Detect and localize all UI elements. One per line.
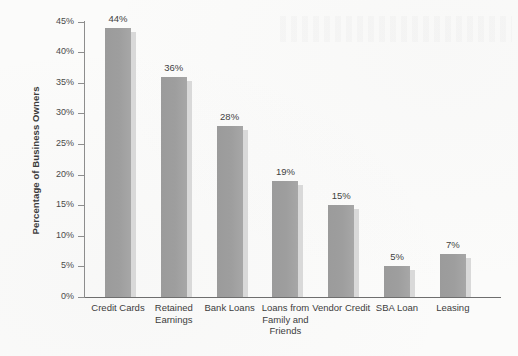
y-axis-tick-mark: [78, 175, 85, 176]
bar-body: [384, 266, 410, 297]
y-axis-tick-label: 25%: [34, 138, 74, 148]
bar-shadow: [466, 258, 471, 297]
bar[interactable]: 5%: [384, 266, 415, 297]
y-axis-tick-mark: [78, 236, 85, 237]
y-axis-tick-label: 15%: [34, 199, 74, 209]
bar-body: [272, 181, 298, 297]
bar-value-label: 7%: [431, 239, 475, 250]
bar-body: [440, 254, 466, 297]
bar-value-label: 19%: [263, 166, 307, 177]
y-axis-tick-mark: [78, 83, 85, 84]
bar-shadow: [410, 270, 415, 297]
bar[interactable]: 36%: [161, 77, 192, 297]
bar-value-label: 5%: [375, 251, 419, 262]
bar-shadow: [131, 32, 136, 297]
bar-value-label: 44%: [96, 13, 140, 24]
bar-shadow: [354, 209, 359, 297]
y-axis-tick-mark: [78, 205, 85, 206]
bar-body: [328, 205, 354, 297]
y-axis-tick-label: 20%: [34, 169, 74, 179]
y-axis-tick-label: 10%: [34, 230, 74, 240]
y-axis-tick-label: 0%: [34, 291, 74, 301]
bar-shadow: [187, 81, 192, 297]
y-axis-tick-mark: [78, 297, 85, 298]
y-axis-tick-mark: [78, 22, 85, 23]
y-axis-tick-label: 35%: [34, 77, 74, 87]
bar-value-label: 28%: [208, 111, 252, 122]
bar[interactable]: 19%: [272, 181, 303, 297]
bar[interactable]: 28%: [217, 126, 248, 297]
bar-shadow: [243, 130, 248, 297]
bar-value-label: 36%: [152, 62, 196, 73]
y-axis-line: [84, 21, 85, 298]
bar[interactable]: 15%: [328, 205, 359, 297]
bar-chart: Percentage of Business Owners 45%40%35%3…: [0, 0, 518, 356]
y-axis-tick-label: 30%: [34, 107, 74, 117]
bar-shadow: [298, 185, 303, 297]
bar-body: [105, 28, 131, 297]
y-axis-tick-mark: [78, 266, 85, 267]
bar-value-label: 15%: [319, 190, 363, 201]
y-axis-tick-label: 40%: [34, 46, 74, 56]
y-axis-tick-label: 5%: [34, 260, 74, 270]
bar[interactable]: 44%: [105, 28, 136, 297]
x-axis-baseline: [84, 297, 501, 298]
bar-body: [161, 77, 187, 297]
y-axis-tick-mark: [78, 144, 85, 145]
bar[interactable]: 7%: [440, 254, 471, 297]
x-axis-category-label: Leasing: [415, 302, 491, 314]
bar-body: [217, 126, 243, 297]
y-axis-tick-mark: [78, 113, 85, 114]
y-axis-tick-label: 45%: [34, 16, 74, 26]
y-axis-tick-mark: [78, 52, 85, 53]
